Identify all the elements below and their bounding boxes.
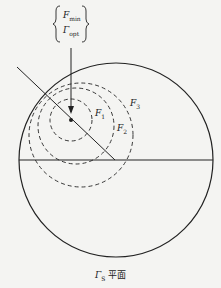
figure-caption: ΓS 平面 xyxy=(0,268,221,282)
f1-label: F1 xyxy=(95,109,105,120)
f3-label: F3 xyxy=(130,99,140,110)
right-brace xyxy=(82,6,89,42)
gamma-opt-label: Γopt xyxy=(63,26,79,37)
f2-label: F2 xyxy=(117,124,127,135)
smith-chart-diagram xyxy=(0,0,221,288)
noise-circle-f2 xyxy=(38,88,114,164)
pointer-arrow-head xyxy=(68,106,74,114)
gamma-opt-point xyxy=(69,118,73,122)
left-brace xyxy=(53,6,60,42)
f-min-label: Fmin xyxy=(63,11,81,22)
noise-circle-f3 xyxy=(29,83,133,187)
